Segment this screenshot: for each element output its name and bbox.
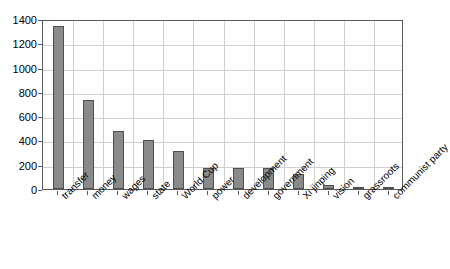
x-tick-mark: [87, 191, 88, 195]
x-gridline: [344, 21, 345, 189]
y-tick-label: 1200: [0, 39, 37, 50]
y-tick-mark: [38, 190, 42, 191]
x-gridline: [193, 21, 194, 189]
x-tick-mark: [268, 191, 269, 195]
bar: [173, 151, 184, 189]
plot-area: [42, 20, 403, 190]
x-tick-mark: [358, 191, 359, 195]
x-tick-mark: [388, 191, 389, 195]
x-gridline: [103, 21, 104, 189]
y-gridline: [43, 94, 402, 95]
bar: [383, 187, 394, 189]
y-tick-label: 800: [0, 87, 37, 98]
x-gridline: [73, 21, 74, 189]
y-gridline: [43, 118, 402, 119]
y-tick-label: 1000: [0, 63, 37, 74]
bar: [233, 168, 244, 189]
x-gridline: [224, 21, 225, 189]
y-gridline: [43, 167, 402, 168]
y-tick-label: 0: [0, 185, 37, 196]
x-gridline: [374, 21, 375, 189]
x-gridline: [163, 21, 164, 189]
y-gridline: [43, 142, 402, 143]
x-tick-mark: [328, 191, 329, 195]
bar: [323, 185, 334, 189]
x-tick-mark: [238, 191, 239, 195]
x-tick-mark: [298, 191, 299, 195]
y-tick-label: 200: [0, 160, 37, 171]
x-gridline: [254, 21, 255, 189]
bar: [53, 26, 64, 189]
y-gridline: [43, 70, 402, 71]
x-tick-mark: [57, 191, 58, 195]
y-gridline: [43, 45, 402, 46]
x-gridline: [133, 21, 134, 189]
y-tick-label: 400: [0, 136, 37, 147]
y-tick-label: 1400: [0, 15, 37, 26]
bar: [353, 187, 364, 189]
y-tick-label: 600: [0, 112, 37, 123]
